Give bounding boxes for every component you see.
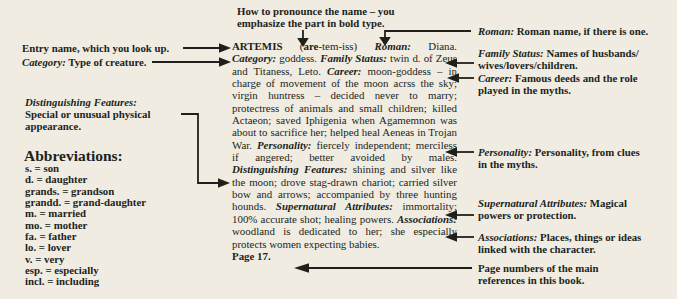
annotation-category-text: Type of creature. bbox=[66, 56, 147, 68]
entry-category-label: Category: bbox=[232, 52, 276, 64]
annotation-roman-label: Roman: bbox=[478, 25, 514, 37]
entry-distinguishing-label: Distinguishing Features: bbox=[232, 163, 347, 175]
entry-supernatural-label: Supernatural Attributes: bbox=[276, 200, 393, 212]
entry-pron-rest: -tem-iss) bbox=[318, 40, 374, 52]
entry-name: ARTEMIS bbox=[232, 40, 300, 52]
annotation-pronounce-line1: How to pronounce the name – you bbox=[237, 5, 395, 17]
annotation-associations: Associations: Places, things or ideas li… bbox=[478, 231, 641, 255]
annotation-career-label: Career: bbox=[478, 72, 512, 84]
entry-roman-label: Roman: bbox=[375, 40, 411, 52]
annotation-personality-label: Personality: bbox=[478, 146, 532, 158]
entry-page-ref: Page 17. bbox=[232, 250, 457, 262]
entry-pron-stress: are bbox=[304, 40, 319, 52]
abbreviations-list: s. = son d. = daughter grands. = grandso… bbox=[25, 163, 146, 288]
annotation-family-status-label: Family Status: bbox=[478, 47, 544, 59]
annotation-family-status: Family Status: Names of husbands/ wives/… bbox=[478, 47, 639, 71]
annotation-career: Career: Famous deeds and the role played… bbox=[478, 72, 638, 96]
annotation-family-status-text: Names of husbands/ bbox=[544, 47, 639, 59]
entry-associations-label: Associations: bbox=[397, 213, 457, 225]
annotation-category-label: Category: bbox=[22, 56, 66, 68]
category-arrow bbox=[152, 57, 231, 67]
annotation-category: Category: Type of creature. bbox=[22, 56, 147, 68]
entry-family-label: Family Status: bbox=[320, 52, 387, 64]
annotation-roman-text: Roman name, if there is one. bbox=[514, 25, 648, 37]
annotation-associations-text: Places, things or ideas bbox=[537, 231, 641, 243]
annotation-supernatural-line2: powers or protection. bbox=[478, 209, 627, 221]
reference-guide-page: How to pronounce the name – you emphasiz… bbox=[0, 0, 677, 299]
annotation-page-numbers: Page numbers of the main references in t… bbox=[478, 262, 599, 286]
annotation-distinguishing: Distinguishing Features: Special or unus… bbox=[25, 96, 151, 133]
annotation-entry-name: Entry name, which you look up. bbox=[22, 42, 169, 54]
entry-name-arrow bbox=[183, 43, 231, 53]
annotation-pronounce: How to pronounce the name – you emphasiz… bbox=[237, 5, 395, 29]
entry-roman-text: Diana. bbox=[411, 40, 457, 52]
abbreviation-item: incl. = including bbox=[25, 276, 146, 287]
annotation-roman: Roman: Roman name, if there is one. bbox=[478, 25, 648, 37]
annotation-supernatural-label: Supernatural Attributes: bbox=[478, 197, 587, 209]
annotation-personality: Personality: Personality, from clues in … bbox=[478, 146, 640, 170]
entry-category-text: goddess. bbox=[276, 52, 320, 64]
annotation-personality-text: Personality, from clues bbox=[532, 146, 640, 158]
annotation-distinguishing-label: Distinguishing Features: bbox=[25, 96, 151, 108]
annotation-associations-line2: linked with the character. bbox=[478, 243, 641, 255]
annotation-career-line2: played in the myths. bbox=[478, 84, 638, 96]
annotation-page-numbers-line2: references in this book. bbox=[478, 274, 599, 286]
annotation-career-text: Famous deeds and the role bbox=[512, 72, 637, 84]
annotation-associations-label: Associations: bbox=[478, 231, 537, 243]
dictionary-entry: ARTEMIS (are-tem-iss) Roman: Diana. Cate… bbox=[232, 40, 457, 262]
annotation-supernatural: Supernatural Attributes: Magical powers … bbox=[478, 197, 627, 221]
annotation-supernatural-text: Magical bbox=[587, 197, 627, 209]
abbreviation-item: d. = daughter bbox=[25, 174, 146, 185]
annotation-family-status-line2: wives/lovers/children. bbox=[478, 59, 639, 71]
page-ref-arrow bbox=[294, 263, 472, 273]
annotation-distinguishing-line3: appearance. bbox=[25, 120, 151, 132]
entry-personality-label: Personality: bbox=[257, 139, 311, 151]
annotation-personality-line2: in the myths. bbox=[478, 158, 640, 170]
distinguishing-elbow-arrow bbox=[181, 114, 230, 188]
entry-associations-text: woodland is dedicated to her; she especi… bbox=[232, 225, 457, 249]
annotation-page-numbers-line1: Page numbers of the main bbox=[478, 262, 599, 274]
annotation-pronounce-line2: emphasize the part in bold type. bbox=[237, 17, 395, 29]
entry-career-label: Career: bbox=[327, 65, 361, 77]
annotation-distinguishing-line2: Special or unusual physical bbox=[25, 108, 151, 120]
